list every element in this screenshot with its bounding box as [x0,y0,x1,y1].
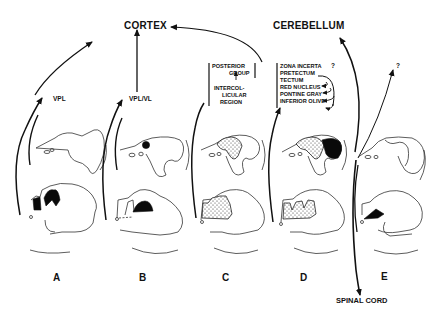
arrow-to-tectum [322,82,327,86]
panel-e-sections [353,137,425,295]
panel-a-sections [16,98,106,253]
panel-label-e: E [381,272,388,282]
panel-label-c: C [222,273,229,283]
zona-incerta-uncertain-mark: ? [331,63,335,70]
cerebellum-label: CEREBELLUM [273,21,344,31]
unknown-target-label: ? [396,63,400,70]
cortex-label: CORTEX [124,21,167,31]
arrow-vpl-to-cortex [35,42,92,95]
panel-label-d: D [300,273,307,283]
arrow-to-unknown [358,70,393,158]
panel-a-upper-section [36,130,104,174]
panel-e-solid-region [364,209,384,219]
panel-b-upper-section [120,137,184,177]
panel-b-inner-arrow [115,118,122,170]
spinal-cord-label: SPINAL CORD [336,297,388,305]
arrow-to-cerebellum [340,38,359,152]
panel-c-ascending-line [192,103,204,218]
inferior-olive-label: INFERIOR OLIVE [280,98,325,105]
panel-d-stippled-region-lower [283,200,316,219]
arrow-posterior-to-cortex [171,27,262,62]
panel-c-sections [192,103,265,254]
panel-b-ascending-arrow [103,100,122,220]
vpl-vl-label: VPL/VL [129,96,152,103]
panel-b-sections [103,100,189,254]
panel-d-sections [269,108,347,254]
arrow-to-red-nucleus [323,88,331,93]
pathway-diagram [0,0,435,314]
region-label: REGION [220,99,242,106]
panel-c-stippled-region-upper [217,137,242,159]
vpl-label: VPL [53,96,66,103]
panel-label-a: A [53,273,60,283]
panel-d-ascending-arrow [269,108,280,222]
panel-d-solid-region [322,138,342,158]
panel-label-b: B [139,273,146,283]
group-label: GROUP [229,70,250,77]
arrow-to-inferior-olive [326,104,333,109]
panel-a-inner-arrow [29,115,38,165]
